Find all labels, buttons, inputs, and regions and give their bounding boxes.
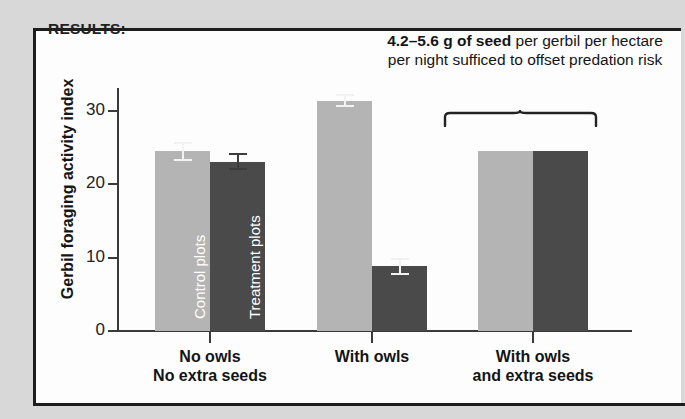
x-tick-mark bbox=[371, 332, 373, 343]
bar-treatment bbox=[533, 151, 588, 331]
bar-control bbox=[478, 151, 533, 331]
figure-panel: RESULTS: 0102030 Gerbil foraging activit… bbox=[0, 0, 685, 419]
error-bar-cap-bottom bbox=[336, 105, 354, 107]
curly-brace-icon bbox=[443, 110, 598, 127]
error-bar-cap-bottom bbox=[174, 159, 192, 161]
x-tick-mark bbox=[209, 332, 211, 343]
x-category-label-line: and extra seeds bbox=[413, 367, 653, 386]
annotation-text: 4.2–5.6 g of seed per gerbil per hectare… bbox=[378, 32, 672, 70]
error-bar bbox=[372, 258, 427, 274]
error-bar bbox=[317, 94, 372, 107]
in-bar-series-label: Treatment plots bbox=[246, 215, 263, 319]
x-category-label-line: With owls bbox=[413, 348, 653, 367]
error-bar-cap-bottom bbox=[391, 273, 409, 275]
x-category-label-line: No extra seeds bbox=[90, 367, 330, 386]
error-bar-cap-top bbox=[336, 94, 354, 96]
error-bar-cap-top bbox=[174, 142, 192, 144]
bar-treatment bbox=[372, 266, 427, 331]
error-bar bbox=[210, 153, 265, 171]
x-tick-mark bbox=[532, 332, 534, 343]
error-bar bbox=[155, 142, 210, 161]
error-bar-cap-top bbox=[391, 258, 409, 260]
error-bar-cap-bottom bbox=[229, 168, 247, 170]
error-bar-cap-top bbox=[229, 153, 247, 155]
x-category-label: With owlsand extra seeds bbox=[413, 348, 653, 386]
annotation-bold-value: 4.2–5.6 g of seed bbox=[387, 32, 511, 49]
bar-control bbox=[317, 101, 372, 331]
in-bar-series-label: Control plots bbox=[191, 235, 208, 319]
